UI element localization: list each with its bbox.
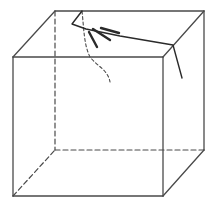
visible-edge (163, 11, 204, 57)
visible-edge (13, 11, 55, 57)
diagram-canvas: Cube with crack at top-back edge (0, 0, 214, 203)
cube-diagram (0, 0, 214, 203)
visible-edge (163, 150, 204, 196)
crack-lines (72, 11, 182, 82)
crack-stroke (89, 32, 97, 47)
crack-main-path (72, 11, 182, 78)
hidden-edge (13, 150, 55, 196)
